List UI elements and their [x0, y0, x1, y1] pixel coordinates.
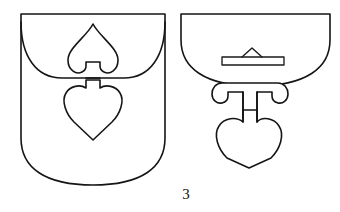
- left-figure: [21, 14, 165, 185]
- bowl-body-outline: [181, 14, 330, 86]
- figure-caption: 3: [182, 186, 190, 202]
- plate-drawing: 3: [0, 0, 340, 212]
- figure-plate: 3: [0, 0, 340, 212]
